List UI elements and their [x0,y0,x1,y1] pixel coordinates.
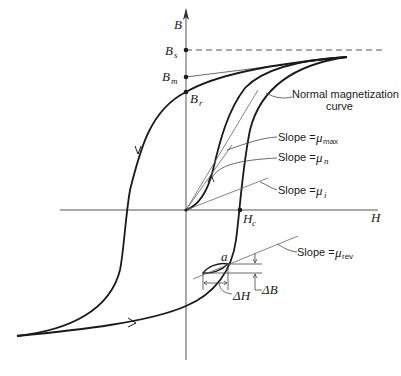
svg-text:m: m [171,76,178,86]
bs-point [184,48,189,53]
hc-label: H c [242,211,256,228]
point-a-label: a [221,249,228,264]
delta-b-arrow-bottom-icon [253,274,257,284]
svg-text:r: r [199,98,203,108]
slope-i-line [186,178,268,210]
slope-max-label: Slope = μ max [278,130,338,146]
slope-max-leader [227,137,277,150]
svg-text:Slope =: Slope = [278,184,316,196]
delta-h-label: ΔH [232,288,251,303]
svg-text:Slope =: Slope = [278,151,316,163]
br-point [184,90,189,95]
normal-magnetization-curve [186,57,347,210]
svg-text:B: B [162,69,170,84]
minor-loop [203,263,228,273]
svg-text:μ: μ [315,130,323,145]
svg-text:rev: rev [342,252,353,261]
slope-rev-line [193,236,298,279]
hc-point [238,208,243,213]
origin-point [184,208,187,211]
svg-text:c: c [252,218,256,228]
slope-i-label: Slope = μ i [278,183,327,200]
svg-text:Slope =: Slope = [278,131,316,143]
hysteresis-diagram: B H B s B m B r H c a Normal magnetizati… [0,0,401,376]
br-label: B r [190,91,203,108]
svg-text:B: B [190,91,198,106]
normal-curve-leader [266,93,292,98]
slope-rev-leader [277,244,297,252]
slope-n-label: Slope = μ n [278,150,329,166]
delta-b-label: ΔB [261,282,278,297]
slope-n-line [186,145,232,210]
slope-rev-label: Slope = μ rev [297,245,353,261]
b-axis-label: B [174,17,182,32]
slope-i-leader [260,182,277,190]
svg-text:n: n [324,156,329,166]
bm-point [184,75,189,80]
bm-label: B m [162,69,178,86]
svg-text:μ: μ [334,245,342,260]
svg-text:s: s [174,50,178,60]
bs-label: B s [165,43,178,60]
svg-text:B: B [165,43,173,58]
normal-curve-label-line1: Normal magnetization [292,88,399,100]
delta-h-leader [219,283,232,294]
svg-text:max: max [323,137,338,146]
svg-text:i: i [324,190,327,200]
normal-curve-label-line2: curve [326,100,353,112]
h-axis-label: H [370,210,381,225]
delta-b-leader [255,284,262,290]
svg-text:μ: μ [315,150,323,165]
svg-text:μ: μ [315,183,323,198]
svg-text:Slope =: Slope = [297,246,335,258]
